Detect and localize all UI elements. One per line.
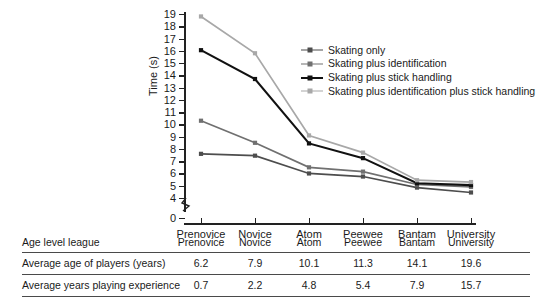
legend-label: Skating plus stick handling bbox=[328, 72, 452, 83]
table-cell: 10.1 bbox=[299, 257, 319, 269]
table-cell: Prenovice bbox=[178, 236, 225, 248]
series-marker bbox=[253, 141, 257, 145]
data-table: Age level leaguePrenoviceNoviceAtomPeewe… bbox=[22, 231, 530, 297]
series-marker bbox=[253, 154, 257, 158]
y-tick-label: 12 bbox=[164, 94, 176, 105]
series-line bbox=[201, 154, 471, 193]
table-cell: University bbox=[448, 236, 494, 248]
y-tick-label: 6 bbox=[170, 168, 176, 179]
series-marker bbox=[307, 141, 311, 145]
series-line bbox=[201, 16, 471, 182]
y-tick-label: 15 bbox=[164, 58, 176, 69]
row-values: PrenoviceNoviceAtomPeeweeBantamUniversit… bbox=[22, 231, 530, 252]
figure-root: Time (s) 191817161514131211109876540 Pre… bbox=[0, 0, 549, 301]
table-cell: 19.6 bbox=[461, 257, 481, 269]
y-tick-label: 8 bbox=[170, 143, 176, 154]
series-marker bbox=[361, 151, 365, 155]
series-marker bbox=[307, 165, 311, 169]
table-cell: 6.2 bbox=[194, 257, 209, 269]
table-cell: 7.9 bbox=[410, 279, 425, 291]
series-marker bbox=[469, 180, 473, 184]
table-cell: 14.1 bbox=[407, 257, 427, 269]
y-tick-label: 5 bbox=[170, 180, 176, 191]
y-tick-label: 9 bbox=[170, 131, 176, 142]
line-chart: Time (s) 191817161514131211109876540 Pre… bbox=[0, 0, 549, 232]
series-marker bbox=[253, 77, 257, 81]
y-tick-label: 17 bbox=[164, 33, 176, 44]
row-values: 6.27.910.111.314.119.6 bbox=[22, 252, 530, 274]
series-marker bbox=[199, 48, 203, 52]
series-marker bbox=[199, 119, 203, 123]
y-tick-label: 7 bbox=[170, 156, 176, 167]
y-tick-label: 4 bbox=[170, 193, 176, 204]
series-marker bbox=[469, 190, 473, 194]
series-marker bbox=[307, 171, 311, 175]
table-cell: 7.9 bbox=[248, 257, 263, 269]
y-axis-label: Time (s) bbox=[147, 56, 159, 96]
legend-label: Skating plus identification plus stick h… bbox=[328, 86, 535, 97]
table-row: Average years playing experience0.72.24.… bbox=[22, 274, 530, 296]
y-tick-label: 14 bbox=[164, 70, 176, 81]
legend-marker-icon bbox=[301, 86, 323, 96]
legend-item-2[interactable]: Skating plus identification bbox=[301, 58, 535, 70]
series-marker bbox=[253, 51, 257, 55]
series-marker bbox=[199, 14, 203, 18]
table-cell: Atom bbox=[297, 236, 322, 248]
table-cell: Bantam bbox=[399, 236, 435, 248]
y-tick-label: 0 bbox=[170, 213, 176, 224]
y-tick-label: 13 bbox=[164, 82, 176, 93]
y-tick-label: 10 bbox=[164, 119, 176, 130]
table-cell: 5.4 bbox=[356, 279, 371, 291]
table-cell: 0.7 bbox=[194, 279, 209, 291]
y-tick-label: 11 bbox=[165, 107, 176, 118]
series-marker bbox=[415, 178, 419, 182]
table-cell: 4.8 bbox=[302, 279, 317, 291]
series-marker bbox=[361, 156, 365, 160]
y-tick-label: 19 bbox=[164, 9, 176, 20]
y-tick-label: 16 bbox=[164, 45, 176, 56]
legend-item-1[interactable]: Skating only bbox=[301, 44, 535, 56]
series-marker bbox=[199, 152, 203, 156]
table-bottom-divider bbox=[22, 296, 530, 297]
chart-legend: Skating onlySkating plus identificationS… bbox=[301, 44, 535, 99]
table-cell: 15.7 bbox=[461, 279, 481, 291]
series-line bbox=[201, 121, 471, 187]
table-row: Average age of players (years)6.27.910.1… bbox=[22, 252, 530, 274]
table-cell: 2.2 bbox=[248, 279, 263, 291]
row-values: 0.72.24.85.47.915.7 bbox=[22, 274, 530, 296]
series-marker bbox=[307, 133, 311, 137]
table-cell: Novice bbox=[239, 236, 271, 248]
legend-label: Skating plus identification bbox=[328, 58, 447, 69]
y-tick-label: 18 bbox=[164, 21, 176, 32]
table-cell: 11.3 bbox=[353, 257, 373, 269]
legend-item-4[interactable]: Skating plus identification plus stick h… bbox=[301, 85, 535, 97]
legend-marker-icon bbox=[301, 73, 323, 83]
table-cell: Peewee bbox=[344, 236, 382, 248]
legend-marker-icon bbox=[301, 45, 323, 55]
table-row: Age level leaguePrenoviceNoviceAtomPeewe… bbox=[22, 231, 530, 252]
series-marker bbox=[361, 170, 365, 174]
legend-marker-icon bbox=[301, 59, 323, 69]
legend-item-3[interactable]: Skating plus stick handling bbox=[301, 72, 535, 84]
legend-label: Skating only bbox=[328, 45, 385, 56]
series-marker bbox=[361, 174, 365, 178]
